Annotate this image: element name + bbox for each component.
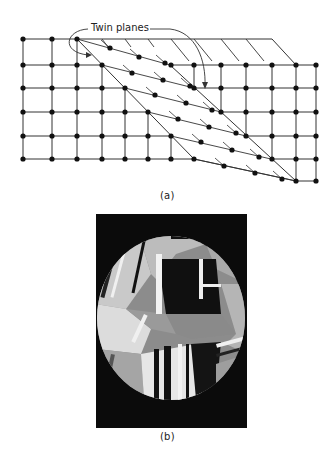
atom bbox=[218, 62, 223, 67]
atom bbox=[243, 133, 248, 138]
atom bbox=[187, 83, 192, 88]
atom bbox=[279, 176, 284, 181]
atom bbox=[183, 100, 188, 105]
atom bbox=[99, 156, 104, 161]
atom bbox=[74, 85, 79, 90]
atom bbox=[191, 156, 196, 161]
atom bbox=[293, 109, 298, 114]
atom bbox=[74, 133, 79, 138]
caption-b: (b) bbox=[160, 431, 175, 442]
atom bbox=[74, 62, 79, 67]
atom bbox=[122, 156, 127, 161]
micrograph-svg bbox=[96, 214, 247, 428]
atom bbox=[49, 62, 54, 67]
atom bbox=[293, 178, 298, 183]
atom bbox=[136, 54, 141, 59]
atom bbox=[99, 85, 104, 90]
atom bbox=[269, 133, 274, 138]
atom bbox=[269, 85, 274, 90]
caption-a: (a) bbox=[160, 190, 175, 201]
atom bbox=[49, 109, 54, 114]
atom bbox=[269, 109, 274, 114]
atom bbox=[20, 109, 25, 114]
atom bbox=[221, 163, 226, 168]
atom bbox=[122, 109, 127, 114]
atom bbox=[252, 170, 257, 175]
atom bbox=[256, 154, 261, 159]
atom bbox=[168, 62, 173, 67]
atom bbox=[145, 109, 150, 114]
atom bbox=[313, 62, 318, 67]
atom bbox=[175, 116, 180, 121]
atom bbox=[313, 156, 318, 161]
atom bbox=[243, 109, 248, 114]
atom bbox=[122, 85, 127, 90]
atom bbox=[168, 156, 173, 161]
atom bbox=[191, 62, 196, 67]
atom bbox=[99, 109, 104, 114]
atom bbox=[49, 156, 54, 161]
atom bbox=[233, 130, 238, 135]
atom bbox=[269, 156, 274, 161]
atom bbox=[99, 133, 104, 138]
atom bbox=[243, 62, 248, 67]
atom bbox=[168, 133, 173, 138]
atom bbox=[49, 85, 54, 90]
lattice-svg bbox=[0, 0, 332, 190]
atom bbox=[145, 156, 150, 161]
atom bbox=[313, 133, 318, 138]
atom bbox=[162, 60, 167, 65]
atom bbox=[160, 77, 165, 82]
atom bbox=[293, 156, 298, 161]
atom bbox=[152, 92, 157, 97]
atom bbox=[313, 85, 318, 90]
atom bbox=[218, 109, 223, 114]
atom bbox=[293, 133, 298, 138]
atom bbox=[49, 133, 54, 138]
atom bbox=[20, 36, 25, 41]
twin-micrograph bbox=[96, 214, 247, 428]
atom bbox=[107, 45, 112, 50]
atom bbox=[293, 62, 298, 67]
atom bbox=[122, 133, 127, 138]
atom bbox=[293, 85, 298, 90]
atom bbox=[20, 156, 25, 161]
atom bbox=[129, 70, 134, 75]
atom bbox=[206, 124, 211, 129]
atom bbox=[269, 62, 274, 67]
atom bbox=[145, 133, 150, 138]
atom bbox=[49, 36, 54, 41]
atom bbox=[218, 85, 223, 90]
atom bbox=[74, 109, 79, 114]
twin-planes-label: Twin planes bbox=[90, 22, 150, 33]
atom bbox=[99, 62, 104, 67]
twinning-lattice-diagram bbox=[0, 0, 332, 190]
atom bbox=[20, 85, 25, 90]
atom bbox=[20, 133, 25, 138]
atom bbox=[313, 109, 318, 114]
atom bbox=[74, 156, 79, 161]
atom bbox=[209, 107, 214, 112]
atom bbox=[313, 178, 318, 183]
atom bbox=[74, 36, 79, 41]
atom bbox=[229, 147, 234, 152]
atom bbox=[20, 62, 25, 67]
atom bbox=[243, 85, 248, 90]
atom bbox=[198, 139, 203, 144]
